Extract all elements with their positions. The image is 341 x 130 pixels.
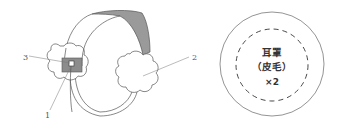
- legend-line-earmuff: 耳罩: [262, 47, 282, 58]
- legend-line-material: （皮毛）: [252, 61, 292, 72]
- earmuff-diagram: 3 1 2 耳罩 （皮毛） ×2: [0, 0, 341, 130]
- callout-3: 3: [23, 53, 28, 62]
- button-component: [69, 61, 74, 66]
- legend-line-quantity: ×2: [265, 77, 279, 87]
- callout-1: 1: [45, 111, 50, 120]
- callout-2: 2: [192, 53, 197, 62]
- legend-circle: 耳罩 （皮毛） ×2: [220, 12, 324, 116]
- right-earmuff: [116, 51, 159, 92]
